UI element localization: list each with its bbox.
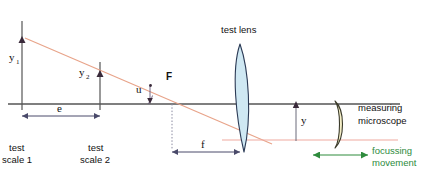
optics-diagram: y 1 y 2 u F e f y test scale 1 test scal… (0, 0, 421, 177)
angle-u-arrowhead (147, 98, 153, 104)
angle-u-dot (149, 84, 152, 87)
microscope-lens-shape (335, 101, 343, 148)
label-focussing-movement-line2: movement (372, 157, 417, 168)
label-measuring-microscope-line1: measuring (358, 102, 402, 113)
label-test-lens: test lens (221, 24, 257, 35)
label-y1-subscript: 1 (16, 58, 20, 66)
label-test-scale-1-line2: scale 1 (2, 154, 32, 165)
label-e: e (57, 102, 62, 114)
label-y2-subscript: 2 (86, 73, 90, 81)
label-test-scale-1-line1: test (9, 142, 25, 153)
label-angle-u: u (136, 83, 142, 95)
label-f: f (201, 138, 205, 150)
label-measuring-microscope-line2: microscope (358, 115, 407, 126)
test-lens-shape (235, 44, 248, 152)
label-y1: y (9, 51, 15, 63)
label-y2: y (79, 66, 85, 78)
label-test-scale-2-line2: scale 2 (80, 154, 110, 165)
y1-arrowhead (19, 36, 26, 43)
diagram-canvas: y 1 y 2 u F e f y test scale 1 test scal… (0, 0, 421, 177)
label-focussing-movement-line1: focussing (372, 145, 412, 156)
label-focal-point-F: F (166, 71, 172, 82)
label-y: y (301, 114, 307, 126)
label-test-scale-2-line1: test (88, 142, 104, 153)
